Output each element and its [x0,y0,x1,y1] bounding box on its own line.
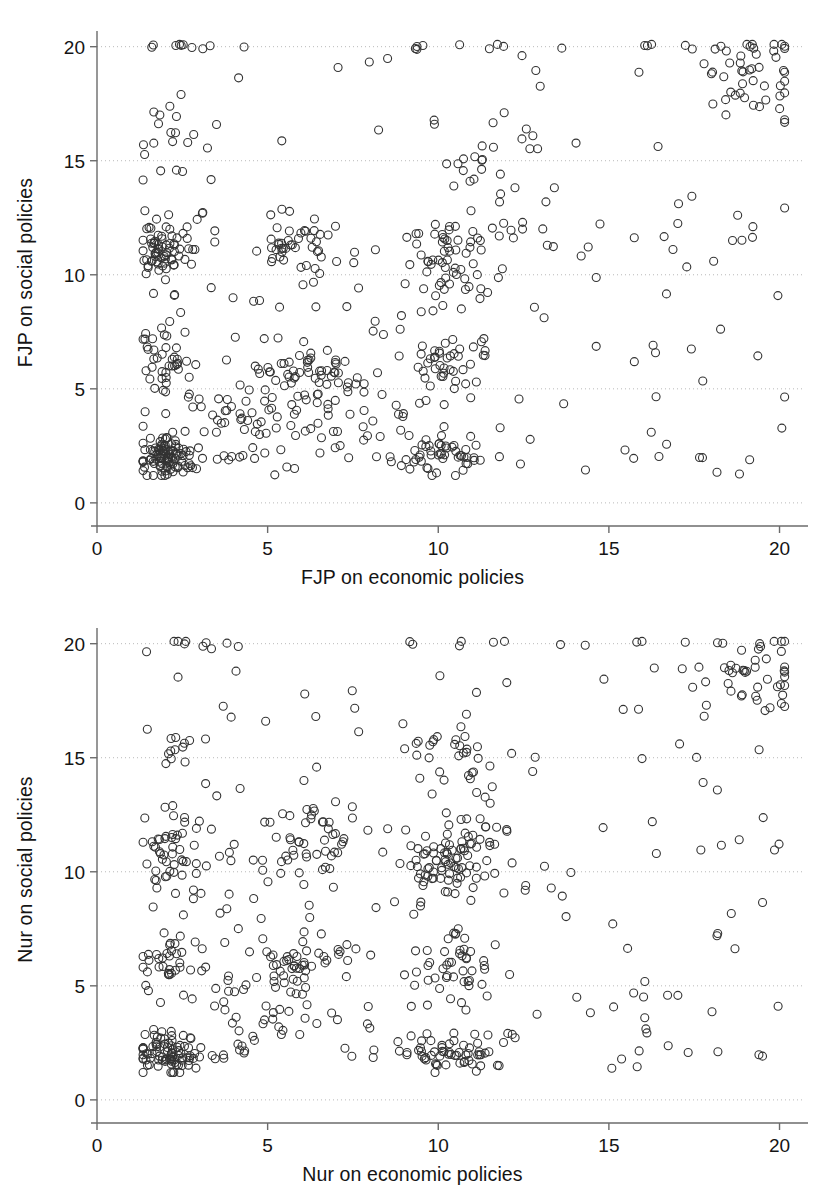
y-tick-label: 0 [74,493,85,514]
y-axis-label-top: FJP on social policies [8,3,42,543]
scatter-figure: 0510152005101520 FJP on social policies … [0,0,825,1193]
x-tick-label: 20 [769,1135,790,1156]
x-tick-label: 15 [598,538,619,559]
data-points [139,637,789,1076]
x-tick-label: 0 [92,538,103,559]
y-tick-label: 5 [74,976,85,997]
y-tick-label: 20 [64,634,85,655]
chart-panel-bottom: 0510152005101520 Nur on social policies … [0,597,825,1193]
x-tick-label: 10 [428,1135,449,1156]
x-tick-label: 0 [92,1135,103,1156]
y-tick-label: 20 [64,37,85,58]
x-axis-label-bottom: Nur on economic policies [0,1163,825,1186]
y-tick-label: 15 [64,748,85,769]
x-tick-label: 5 [262,1135,273,1156]
x-tick-label: 10 [428,538,449,559]
y-axis-label-bottom: Nur on social policies [8,600,42,1140]
x-tick-label: 15 [598,1135,619,1156]
y-tick-label: 5 [74,379,85,400]
scatter-plot-bottom: 0510152005101520 [0,597,825,1193]
y-tick-label: 10 [64,265,85,286]
y-tick-label: 15 [64,151,85,172]
data-points [139,40,789,479]
x-tick-label: 5 [262,538,273,559]
x-tick-label: 20 [769,538,790,559]
scatter-plot-top: 0510152005101520 [0,0,825,596]
x-axis-label-top: FJP on economic policies [0,566,825,589]
y-tick-label: 10 [64,862,85,883]
chart-panel-top: 0510152005101520 FJP on social policies … [0,0,825,596]
y-tick-label: 0 [74,1090,85,1111]
